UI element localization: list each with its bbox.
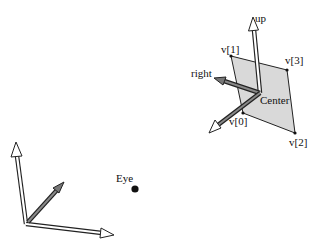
center-label: Center bbox=[260, 94, 290, 106]
eye-right-axis bbox=[26, 224, 114, 238]
vertex-v3 bbox=[285, 68, 288, 71]
v1-label: v[1] bbox=[221, 43, 239, 55]
v3-label: v[3] bbox=[285, 54, 303, 66]
eye-up-axis bbox=[11, 142, 26, 224]
eye-frame bbox=[11, 142, 114, 238]
eye-point bbox=[131, 185, 138, 192]
v2-label: v[2] bbox=[289, 136, 307, 148]
up-label: up bbox=[255, 12, 267, 24]
right-label: right bbox=[191, 67, 212, 79]
eye-label: Eye bbox=[116, 172, 133, 184]
eye-forward-axis bbox=[28, 182, 64, 222]
v0-label: v[0] bbox=[229, 115, 247, 127]
camera-diagram: up right Center v[0] v[1] v[2] v[3] Eye bbox=[0, 0, 335, 246]
vertex-v2 bbox=[293, 131, 296, 134]
